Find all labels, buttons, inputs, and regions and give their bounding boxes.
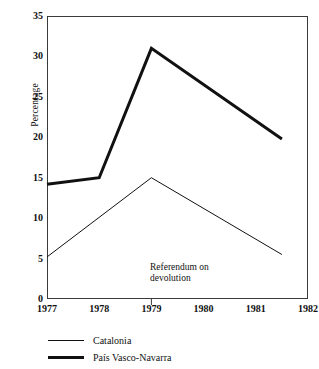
chart-figure: Percentage 05101520253035 19771978197919… (0, 0, 319, 369)
legend-label-pais-vasco-navarra: País Vasco-Navarra (93, 352, 171, 363)
legend-label-catalonia: Catalonia (93, 335, 131, 346)
legend-item-pais-vasco-navarra: País Vasco-Navarra (48, 349, 308, 366)
referendum-annotation: Referendum on devolution (150, 262, 260, 285)
legend-item-catalonia: Catalonia (48, 332, 308, 349)
x-axis-tick-labels: 197719781979198019811982 (0, 0, 319, 369)
x-axis-tick-1979: 1979 (128, 303, 174, 314)
chart-legend: Catalonia País Vasco-Navarra (48, 332, 308, 366)
x-axis-tick-1981: 1981 (233, 303, 279, 314)
x-axis-tick-1978: 1978 (76, 303, 122, 314)
x-axis-tick-1977: 1977 (24, 303, 70, 314)
x-axis-tick-1980: 1980 (181, 303, 227, 314)
x-axis-tick-1982: 1982 (285, 303, 319, 314)
